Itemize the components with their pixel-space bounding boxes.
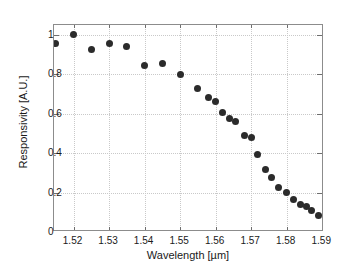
y-axis-tick-label: 0	[48, 226, 54, 237]
x-axis-tick-label: 1.57	[240, 235, 259, 246]
x-axis-tick-label: 1.53	[98, 235, 117, 246]
data-point	[248, 134, 255, 141]
x-axis-title: Wavelength [µm]	[53, 249, 323, 261]
y-axis-tick-label: 0.8	[48, 68, 62, 79]
data-point	[283, 189, 290, 196]
data-point	[262, 166, 269, 173]
data-point	[290, 196, 297, 203]
y-axis-tick-label: 0.2	[48, 186, 62, 197]
data-point	[268, 174, 275, 181]
y-axis-tick-label: 0.6	[48, 107, 62, 118]
data-point	[141, 62, 148, 69]
data-point	[315, 212, 322, 219]
data-point	[159, 60, 166, 67]
data-point	[308, 207, 315, 214]
plot-area	[53, 24, 323, 231]
y-axis-title: Responsivity [A.U.]	[17, 19, 29, 226]
data-point	[106, 40, 113, 47]
data-point	[232, 118, 239, 125]
x-axis-tick-label: 1.56	[205, 235, 224, 246]
data-point	[219, 109, 226, 116]
data-point	[88, 46, 95, 53]
x-axis-tick-label: 1.58	[276, 235, 295, 246]
x-axis-tick-label: 1.55	[169, 235, 188, 246]
data-point	[212, 98, 219, 105]
data-point	[123, 43, 130, 50]
data-point	[54, 40, 59, 47]
y-axis-tick-label: 1	[48, 28, 54, 39]
data-point	[70, 31, 77, 38]
data-point	[275, 184, 282, 191]
y-axis-tick-label: 0.4	[48, 147, 62, 158]
data-point	[205, 94, 212, 101]
data-point	[177, 71, 184, 78]
data-point	[241, 132, 248, 139]
chart-figure: 1.521.531.541.551.561.571.581.59 00.20.4…	[0, 0, 348, 277]
x-axis-tick-label: 1.54	[134, 235, 153, 246]
x-axis-tick-label: 1.52	[63, 235, 82, 246]
data-point	[254, 151, 261, 158]
data-points-layer	[54, 25, 322, 230]
data-point	[194, 85, 201, 92]
x-axis-tick-label: 1.59	[311, 235, 330, 246]
